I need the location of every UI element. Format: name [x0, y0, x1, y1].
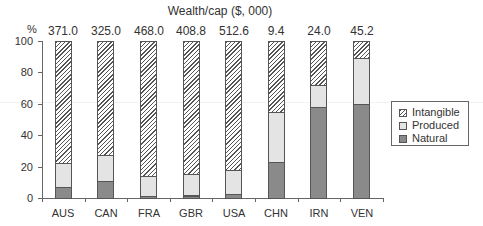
wealth-value-label: 45.2 — [337, 24, 387, 38]
x-tick — [42, 198, 43, 202]
x-tick-label: VEN — [341, 207, 383, 219]
chart-title: Wealth/cap ($, 000) — [0, 4, 440, 18]
segment-produced — [310, 85, 327, 108]
y-tick-label: 40 — [0, 129, 33, 141]
segment-produced — [353, 58, 370, 105]
x-tick-label: CAN — [85, 207, 127, 219]
segment-natural — [268, 162, 285, 199]
x-tick — [85, 198, 86, 202]
legend-item-intangible: Intangible — [399, 106, 460, 119]
segment-produced — [55, 163, 72, 188]
hatched-swatch-icon — [399, 109, 407, 117]
legend-item-produced: Produced — [399, 119, 459, 132]
segment-produced — [97, 155, 114, 182]
x-tick — [340, 198, 341, 202]
segment-natural — [55, 187, 72, 199]
x-tick-label: USA — [213, 207, 255, 219]
segment-natural — [97, 181, 114, 199]
x-tick-label: AUS — [42, 207, 84, 219]
y-axis — [42, 41, 43, 198]
y-tick-label: 20 — [0, 161, 33, 173]
y-tick-label: 60 — [0, 98, 33, 110]
segment-intangible — [140, 41, 157, 177]
x-tick-label: CHN — [255, 207, 297, 219]
y-tick-label: 80 — [0, 66, 33, 78]
light-swatch-icon — [399, 122, 407, 130]
x-tick — [383, 198, 384, 202]
segment-natural — [310, 107, 327, 199]
segment-intangible — [353, 41, 370, 59]
x-tick — [170, 198, 171, 202]
segment-produced — [268, 112, 285, 163]
segment-produced — [183, 174, 200, 196]
x-tick-label: IRN — [298, 207, 340, 219]
segment-natural — [183, 196, 200, 199]
y-tick-label: 0 — [0, 192, 33, 204]
segment-produced — [140, 176, 157, 197]
legend: Intangible Produced Natural — [391, 101, 469, 146]
x-tick — [255, 198, 256, 202]
segment-intangible — [310, 41, 327, 86]
x-tick — [127, 198, 128, 202]
legend-item-natural: Natural — [399, 132, 447, 145]
segment-intangible — [97, 41, 114, 156]
segment-intangible — [183, 41, 200, 175]
dark-swatch-icon — [399, 135, 407, 143]
x-tick — [212, 198, 213, 202]
x-tick — [298, 198, 299, 202]
segment-natural — [353, 104, 370, 199]
y-tick-label: 100 — [0, 35, 33, 47]
segment-intangible — [268, 41, 285, 113]
segment-intangible — [225, 41, 242, 171]
segment-intangible — [55, 41, 72, 164]
segment-produced — [225, 170, 242, 195]
x-tick-label: GBR — [170, 207, 212, 219]
y-axis-unit-label: % — [27, 23, 37, 35]
x-tick-label: FRA — [128, 207, 170, 219]
